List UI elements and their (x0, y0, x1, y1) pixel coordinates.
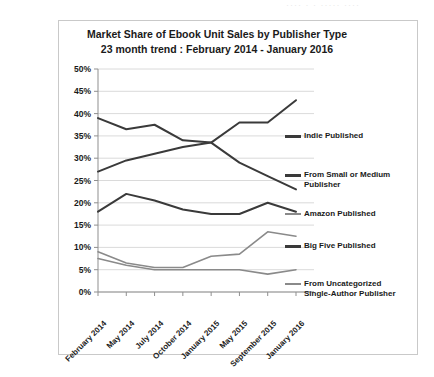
legend-label: Big Five Published (304, 241, 408, 251)
x-axis-tick-label: May 2014 (105, 319, 137, 351)
legend-item[interactable]: Big Five Published (285, 241, 408, 251)
legend-label: From Uncategorized Single-Author Publish… (304, 279, 408, 299)
legend-swatch-icon (285, 213, 301, 215)
y-axis-tick-label: 30% (57, 153, 91, 163)
legend-swatch-icon (285, 283, 301, 285)
legend-label: From Small or Medium Publisher (304, 170, 408, 190)
legend-swatch-icon (285, 135, 301, 138)
y-axis-tick-label: 10% (57, 242, 91, 252)
y-axis-tick-label: 50% (57, 64, 91, 74)
legend-swatch-icon (285, 174, 301, 177)
legend-item[interactable]: Amazon Published (285, 209, 408, 219)
chart-frame: Market Share of Ebook Unit Sales by Publ… (58, 20, 418, 355)
legend-item[interactable]: From Small or Medium Publisher (285, 170, 408, 190)
legend-item[interactable]: From Uncategorized Single-Author Publish… (285, 279, 408, 299)
y-axis-tick-label: 15% (57, 220, 91, 230)
x-axis-tick-label: February 2014 (64, 319, 109, 364)
plot-area: 0%5%10%15%20%25%30%35%40%45%50% February… (59, 21, 419, 356)
y-axis-tick-label: 25% (57, 176, 91, 186)
y-axis-tick-label: 20% (57, 198, 91, 208)
y-axis-tick-label: 40% (57, 109, 91, 119)
y-axis-tick-label: 5% (57, 265, 91, 275)
y-axis-tick-label: 45% (57, 86, 91, 96)
series-line-4 (98, 259, 296, 275)
legend-swatch-icon (285, 245, 301, 248)
y-axis-tick-label: 35% (57, 131, 91, 141)
y-axis-tick-label: 0% (57, 287, 91, 297)
series-line-3 (98, 194, 296, 214)
legend-item[interactable]: Indie Published (285, 131, 408, 141)
series-line-2 (98, 232, 296, 268)
y-axis-labels: 0%5%10%15%20%25%30%35%40%45%50% (55, 21, 91, 356)
x-axis-labels: February 2014May 2014July 2014October 20… (59, 313, 359, 373)
series-line-1 (98, 118, 296, 189)
watermark-text: ···· · · ····· ···· (286, 0, 434, 12)
legend-label: Indie Published (304, 131, 408, 141)
legend-label: Amazon Published (304, 209, 408, 219)
